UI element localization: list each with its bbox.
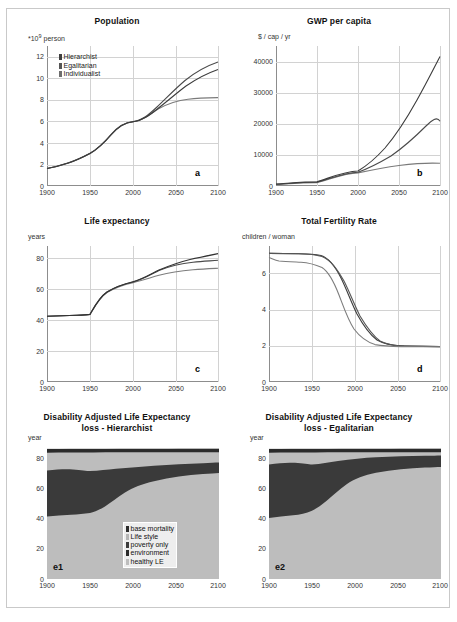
panel-e1-title-line2: loss - Hierarchist	[6, 423, 228, 433]
panel-c-xtick-1900: 1900	[30, 385, 64, 392]
legend-swatch-icon-base-mortality	[126, 526, 129, 532]
legend-swatch-icon-hierarchist	[59, 54, 62, 60]
panel-e1-ytick-80: 80	[10, 455, 44, 462]
panel-a-legend: Hierarchist Egalitarian Individualist	[59, 53, 100, 79]
panel-b-xtick-1950: 1950	[300, 189, 334, 196]
panel-c-curves	[47, 246, 219, 382]
legend-label-environment: environment	[131, 549, 170, 556]
panel-e2-xtick-1950: 1950	[295, 582, 329, 589]
panel-e1-ytick-60: 60	[10, 485, 44, 492]
panel-a-ytick-6: 6	[10, 118, 44, 125]
panel-d-curves	[269, 246, 441, 382]
panel-b-plot-area: 0 10000 20000 30000 40000 1900 1950 2000…	[276, 46, 441, 186]
panel-b-xtick-2100: 2100	[423, 189, 457, 196]
panel-gwp-per-capita: GWP per capita $ / cap / yr 0 10000 2000…	[228, 8, 450, 206]
panel-a-title: Population	[6, 16, 228, 26]
panel-d-title: Total Fertility Rate	[228, 216, 450, 226]
panel-a-xtick-2050: 2050	[159, 189, 193, 196]
legend-swatch-icon-life-style	[126, 534, 129, 540]
panel-e1-y-axis-label: year	[28, 434, 42, 441]
panel-c-plot-area: 0 20 40 60 80 1900 1950 2000 2050 2100 c	[47, 246, 219, 382]
panel-e2-ytick-60: 60	[232, 485, 266, 492]
panel-e1-xtick-1900: 1900	[30, 582, 64, 589]
legend-item-base-mortality: base mortality	[126, 525, 174, 533]
legend-swatch-icon-individualist	[59, 71, 62, 77]
panel-b-ytick-30000: 30000	[239, 89, 273, 96]
panel-c-ytick-40: 40	[10, 317, 44, 324]
panel-a-xtick-1900: 1900	[30, 189, 64, 196]
panel-c-xtick-2000: 2000	[116, 385, 150, 392]
panel-d-xtick-2000: 2000	[338, 385, 372, 392]
area-above-top	[269, 446, 441, 449]
panel-e2-title-line1: Disability Adjusted Life Expectancy	[228, 412, 450, 422]
panel-e2-ytick-20: 20	[232, 545, 266, 552]
legend-item-life-style: Life style	[126, 533, 174, 541]
panel-b-xtick-2050: 2050	[382, 189, 416, 196]
panel-d-ytick-6: 6	[232, 270, 266, 277]
panel-a-ytick-8: 8	[10, 96, 44, 103]
legend-item-poverty-only: poverty only	[126, 541, 174, 549]
legend-item-egalitarian: Egalitarian	[59, 62, 100, 71]
panel-e1-xtick-2050: 2050	[159, 582, 193, 589]
panel-d-xtick-2050: 2050	[381, 385, 415, 392]
panel-a-ytick-4: 4	[10, 140, 44, 147]
panel-e2-xtick-2050: 2050	[381, 582, 415, 589]
area-top-band	[269, 448, 441, 452]
panel-a-xtick-2000: 2000	[116, 189, 150, 196]
panel-e2-xtick-2000: 2000	[338, 582, 372, 589]
panel-a-ytick-10: 10	[10, 75, 44, 82]
panel-b-y-axis-label: $ / cap / yr	[258, 33, 291, 40]
panel-population: Population *109 person 0 2 4 6 8 10 12	[6, 8, 228, 206]
area-top-band	[47, 448, 219, 452]
panel-e1-xtick-1950: 1950	[73, 582, 107, 589]
panel-e2-title-line2: loss - Egalitarian	[228, 423, 450, 433]
panel-c-ytick-60: 60	[10, 286, 44, 293]
panel-e1-title-line1: Disability Adjusted Life Expectancy	[6, 412, 228, 422]
panel-e2-plot-area: 0 20 40 60 80 1900 1950 2000 2050 2100 e…	[269, 446, 441, 579]
panel-b-xtick-1900: 1900	[259, 189, 293, 196]
panel-e1-ytick-40: 40	[10, 515, 44, 522]
panel-c-xtick-2050: 2050	[159, 385, 193, 392]
area-above-top	[47, 446, 219, 449]
panel-a-xtick-1950: 1950	[73, 189, 107, 196]
panel-dale-egalitarian: Disability Adjusted Life Expectancy loss…	[228, 406, 450, 608]
panel-e2-stacked-areas	[269, 446, 441, 579]
panel-b-title: GWP per capita	[228, 16, 450, 26]
legend-label-poverty-only: poverty only	[131, 541, 169, 548]
panel-c-letter: c	[195, 364, 200, 374]
panel-e2-y-axis-label: year	[250, 434, 264, 441]
panel-a-plot-area: 0 2 4 6 8 10 12 1900 1950 2000 2050 2100	[47, 46, 219, 186]
panel-e1-xtick-2000: 2000	[116, 582, 150, 589]
legend-swatch-icon-poverty-only	[126, 542, 129, 548]
panel-e1-plot-area: 0 20 40 60 80 1900 1950 2000 2050 2100 b…	[47, 446, 219, 579]
panel-b-ytick-10000: 10000	[239, 151, 273, 158]
legend-label-base-mortality: base mortality	[131, 525, 175, 532]
legend-swatch-icon-healthy-le	[126, 559, 129, 565]
panel-a-ytick-12: 12	[10, 53, 44, 60]
legend-swatch-icon-egalitarian	[59, 63, 62, 69]
panel-e1-legend: base mortality Life style poverty only e…	[123, 522, 177, 568]
legend-label-individualist: Individualist	[64, 70, 101, 77]
y-label-suffix: person	[42, 35, 65, 42]
figure-page: Population *109 person 0 2 4 6 8 10 12	[0, 0, 457, 622]
legend-item-hierarchist: Hierarchist	[59, 53, 100, 62]
panel-c-y-axis-label: years	[28, 233, 45, 240]
panel-c-ytick-20: 20	[10, 348, 44, 355]
panel-e2-area-svg	[269, 446, 441, 579]
legend-label-egalitarian: Egalitarian	[64, 62, 97, 69]
panel-d-letter: d	[417, 364, 423, 374]
panel-e2-letter: e2	[275, 562, 285, 572]
panel-e1-letter: e1	[53, 562, 63, 572]
legend-swatch-icon-environment	[126, 550, 129, 556]
panel-d-xtick-2100: 2100	[423, 385, 457, 392]
legend-label-life-style: Life style	[131, 533, 159, 540]
panel-e2-ytick-40: 40	[232, 515, 266, 522]
panel-d-ytick-2: 2	[232, 342, 266, 349]
legend-label-healthy-le: healthy LE	[131, 558, 164, 565]
panel-b-curves	[276, 46, 441, 186]
panel-d-plot-area: 0 2 4 6 1900 1950 2000 2050 2100 d	[269, 246, 441, 382]
panel-dale-hierarchist: Disability Adjusted Life Expectancy loss…	[6, 406, 228, 608]
panel-b-letter: b	[417, 168, 423, 178]
panel-a-ytick-2: 2	[10, 161, 44, 168]
panel-e2-ytick-80: 80	[232, 455, 266, 462]
